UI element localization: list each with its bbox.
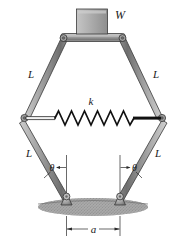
label-link-bottom-right: L (154, 147, 161, 159)
lower-left-link (20, 120, 70, 201)
label-link-bottom-left: L (25, 147, 32, 159)
weight-block (77, 9, 108, 34)
label-dimension-a: a (91, 223, 97, 235)
label-link-top-right: L (152, 68, 159, 80)
label-angle-left: θ (50, 162, 55, 173)
label-angle-right: θ (132, 162, 137, 173)
spring (26, 111, 161, 125)
lower-right-link (118, 120, 168, 201)
spring-label: k (89, 95, 95, 107)
dimension-a: a (67, 216, 121, 236)
mechanism-figure: k L L L L W θ θ (0, 0, 187, 251)
top-bar (61, 34, 125, 42)
label-weight: W (115, 8, 126, 22)
top-right-pivot (119, 35, 126, 42)
label-link-top-left: L (27, 68, 34, 80)
top-left-pivot (60, 35, 67, 42)
ground (38, 198, 148, 216)
